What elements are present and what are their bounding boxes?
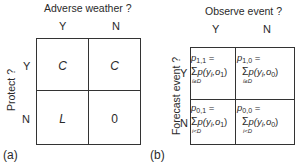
panel-a-tag: (a) [3, 148, 18, 162]
panel-b-col-n: N [263, 23, 271, 35]
panel-b-cell-yy: p1,1 = Σp(yi,o1) i≥D [191, 53, 227, 80]
panel-b-cell-yn: p1,0 = Σp(yi,o0) i≥D [237, 53, 278, 80]
panel-a-row-y: Y [23, 60, 30, 72]
panel-a-col-n: N [112, 20, 120, 32]
panel-b-grid-divider-h [190, 99, 295, 100]
panel-a-cell-yn: C [89, 59, 140, 73]
panel-a-row-n: N [22, 113, 30, 125]
panel-a-grid-divider-v [88, 38, 89, 145]
panel-b-cell-ny: p0,1 = Σp(yi,o1) i<D [191, 103, 227, 130]
panel-a-cell-ny: L [37, 112, 88, 126]
panel-b-row-y: Y [180, 67, 187, 79]
panel-b-row-n: N [180, 117, 188, 129]
panel-b-col-y: Y [212, 23, 219, 35]
panel-a-cell-nn: 0 [89, 112, 140, 126]
panel-a-column-title: Adverse weather ? [44, 2, 132, 14]
panel-b-cell-nn: p0,0 = Σp(yi,o0) i<D [237, 103, 278, 130]
panel-b-tag: (b) [150, 148, 165, 162]
panel-b-column-title: Observe event ? [205, 5, 282, 17]
panel-a-row-title: Protect ? [5, 65, 17, 115]
panel-a-cell-yy: C [37, 59, 88, 73]
panel-b-grid-divider-v [235, 47, 236, 145]
panel-a-grid-divider-h [36, 90, 141, 91]
panel-a-col-y: Y [59, 20, 66, 32]
